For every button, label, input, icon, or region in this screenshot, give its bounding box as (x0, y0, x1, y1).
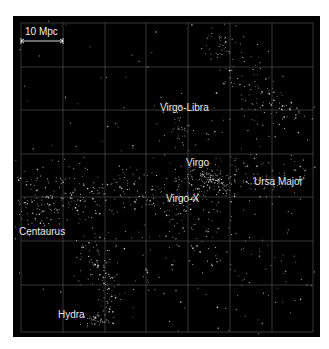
label-virgo-libra: Virgo-Libra (160, 102, 209, 113)
label-virgo: Virgo (186, 157, 209, 168)
label-virgo-x: Virgo-X (166, 193, 199, 204)
scale-bar (21, 38, 63, 44)
galaxy-distribution-map (0, 0, 329, 349)
label-ursa-major: Ursa Major (254, 176, 303, 187)
scale-bar-label: 10 Mpc (25, 26, 58, 37)
label-centaurus: Centaurus (19, 226, 65, 237)
label-hydra: Hydra (58, 309, 85, 320)
